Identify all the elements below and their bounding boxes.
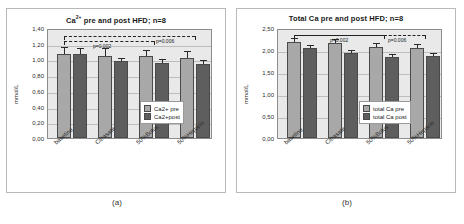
subcaption-a: (a)	[6, 198, 228, 207]
bar-group-50-heparin	[409, 30, 442, 138]
errorbar-cap	[414, 44, 421, 45]
legend-swatch-post-icon	[144, 113, 151, 120]
significance-bracket-tick	[425, 35, 426, 39]
y-tick-label: 1,50	[262, 70, 274, 76]
errorbar-post	[121, 59, 122, 61]
y-tick-label: 1,00	[262, 92, 274, 98]
errorbar-cap	[184, 51, 191, 52]
significance-bracket-tick	[64, 36, 65, 40]
bar-pre[interactable]	[98, 56, 112, 139]
bar-pre[interactable]	[410, 48, 424, 138]
bar-post[interactable]	[114, 61, 128, 138]
y-tick-label: 0,00	[32, 136, 44, 142]
legend-a: Ca2+ pre Ca2+post	[140, 101, 184, 124]
bar-pre[interactable]	[369, 47, 383, 138]
y-axis-ticks-a: 1,40 1,20 1,00 0,80 0,60 0,40 0,20 0,00	[15, 29, 44, 139]
chart-title-b: Total Ca pre and post HFD; n=8	[237, 14, 455, 23]
chart-frame-a: Ca2+ pre and post HFD; n=8 mmol/L 1,40 1…	[6, 8, 226, 193]
bar-group-50-heparin	[179, 30, 212, 138]
errorbar-post	[351, 51, 352, 53]
bar-pre[interactable]	[287, 42, 301, 138]
p-value-label-1: p=0.002	[330, 37, 348, 43]
errorbar-pre	[146, 51, 147, 57]
errorbar-cap	[348, 50, 355, 51]
bar-group-citrasate	[327, 30, 360, 138]
p-value-label-1: p=0.002	[93, 43, 111, 49]
significance-bracket-tick	[294, 35, 295, 39]
y-tick-label: 1,20	[32, 42, 44, 48]
figure-container: Ca2+ pre and post HFD; n=8 mmol/L 1,40 1…	[0, 0, 464, 224]
errorbar-pre	[417, 45, 418, 49]
errorbar-cap	[430, 53, 437, 54]
errorbar-post	[392, 55, 393, 57]
y-tick-label: 1,00	[32, 57, 44, 63]
chart-title-a-main: Ca	[66, 16, 76, 25]
bar-post[interactable]	[303, 48, 317, 138]
y-tick-label: 0,50	[262, 114, 274, 120]
y-tick-label: 0,00	[262, 136, 274, 142]
bar-post[interactable]	[344, 53, 358, 138]
legend-b: total Ca pre total Ca post	[359, 101, 411, 124]
errorbar-cap	[143, 50, 150, 51]
legend-item-post[interactable]: Ca2+post	[144, 113, 180, 120]
plot-area-a: p=0.002 p=0.006	[47, 29, 212, 139]
y-tick-label: 0,60	[32, 89, 44, 95]
errorbar-pre	[64, 48, 65, 54]
y-axis-ticks-b: 2,50 2,00 1,50 1,00 0,50 0,00	[245, 29, 274, 139]
y-tick-label: 0,40	[32, 105, 44, 111]
errorbar-cap	[307, 45, 314, 46]
x-axis-labels-a: baseline Citrasate 50%Bolus 50%Heparin	[47, 141, 212, 183]
legend-swatch-pre-icon	[363, 105, 370, 112]
errorbar-post	[80, 49, 81, 54]
errorbar-cap	[389, 54, 396, 55]
subcaption-b: (b)	[236, 198, 458, 207]
bar-group-baseline	[286, 30, 319, 138]
errorbar-cap	[200, 60, 207, 61]
chart-title-a-rest: pre and post HFD; n=8	[82, 16, 167, 25]
x-axis-labels-b: baseline Citrasate 50%Bolus 50%Heparin	[277, 141, 442, 183]
bar-group-baseline	[56, 30, 89, 138]
y-tick-label: 2,50	[262, 26, 274, 32]
legend-swatch-pre-icon	[144, 105, 151, 112]
legend-label-post: total Ca post	[373, 114, 407, 120]
errorbar-pre	[105, 49, 106, 55]
bar-post[interactable]	[73, 54, 87, 138]
errorbar-post	[433, 54, 434, 56]
errorbar-cap	[61, 47, 68, 48]
chart-panel-a: Ca2+ pre and post HFD; n=8 mmol/L 1,40 1…	[6, 8, 228, 194]
legend-item-pre[interactable]: Ca2+ pre	[144, 105, 180, 112]
errorbar-post	[162, 60, 163, 62]
p-value-label-2: p=0.006	[156, 38, 174, 44]
y-tick-label: 2,00	[262, 48, 274, 54]
errorbar-pre	[376, 44, 377, 47]
errorbar-pre	[187, 52, 188, 58]
errorbar-post	[310, 46, 311, 48]
significance-bracket-tick	[154, 41, 155, 45]
errorbar-cap	[373, 43, 380, 44]
chart-panel-b: Total Ca pre and post HFD; n=8 mmol/L 2,…	[236, 8, 458, 194]
errorbar-cap	[159, 59, 166, 60]
chart-title-a: Ca2+ pre and post HFD; n=8	[7, 14, 225, 25]
legend-item-post[interactable]: total Ca post	[363, 113, 407, 120]
chart-frame-b: Total Ca pre and post HFD; n=8 mmol/L 2,…	[236, 8, 456, 193]
legend-label-pre: total Ca pre	[373, 106, 404, 112]
errorbar-cap	[118, 58, 125, 59]
chart-title-b-main: Total Ca pre and post HFD; n=8	[289, 14, 403, 23]
y-tick-label: 0,80	[32, 73, 44, 79]
errorbar-post	[203, 61, 204, 64]
legend-swatch-post-icon	[363, 113, 370, 120]
bar-pre[interactable]	[57, 54, 71, 138]
significance-bracket-tick	[64, 41, 65, 45]
significance-bracket-outer	[64, 36, 195, 37]
y-tick-label: 1,40	[32, 26, 44, 32]
legend-item-pre[interactable]: total Ca pre	[363, 105, 407, 112]
y-tick-label: 0,20	[32, 120, 44, 126]
bar-pre[interactable]	[328, 43, 342, 138]
legend-label-post: Ca2+post	[154, 114, 180, 120]
p-value-label-2: p=0.006	[388, 37, 406, 43]
legend-label-pre: Ca2+ pre	[154, 106, 179, 112]
bar-pre[interactable]	[139, 56, 153, 138]
significance-bracket-tick	[195, 36, 196, 40]
errorbar-cap	[77, 48, 84, 49]
bar-series-a	[48, 30, 211, 138]
